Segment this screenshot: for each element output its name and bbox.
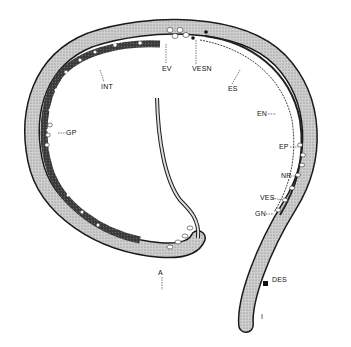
label-ves: VES — [260, 194, 275, 202]
label-es: ES — [228, 85, 238, 93]
label-a: A — [158, 269, 163, 277]
label-nr: NR — [281, 172, 292, 180]
label-des: DES — [272, 276, 287, 284]
label-en: EN — [257, 110, 267, 118]
label-vesn: VESN — [192, 65, 212, 73]
label-ev: EV — [162, 65, 172, 73]
label-gp: GP — [66, 129, 77, 137]
label-i: I — [261, 313, 263, 321]
label-int: INT — [101, 83, 113, 91]
nematode-illustration — [0, 0, 351, 347]
tail — [157, 98, 198, 238]
nematode-figure: INT GP EV VESN ES EN EP NR VES GN A DES … — [0, 0, 351, 347]
label-gn: GN — [255, 210, 266, 218]
des-marker — [263, 281, 268, 286]
label-ep: EP — [279, 143, 289, 151]
